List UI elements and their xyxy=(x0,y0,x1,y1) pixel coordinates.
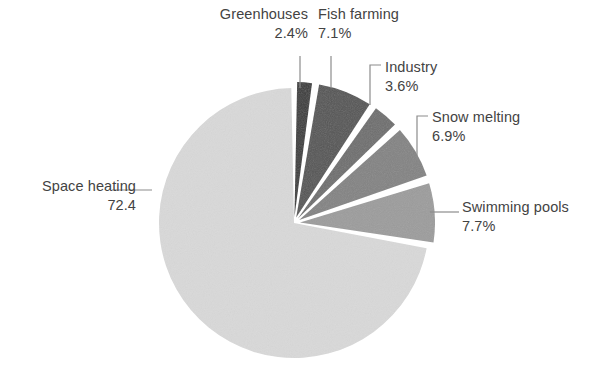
slice-label-space-heating-value: 72.4 xyxy=(6,196,136,215)
slice-label-swimming-pools: Swimming pools 7.7% xyxy=(462,198,603,235)
pie-chart-figure: Greenhouses 2.4% Fish farming 7.1% Indus… xyxy=(0,0,603,367)
slice-label-space-heating: Space heating 72.4 xyxy=(6,177,136,214)
slice-label-fish-farming-value: 7.1% xyxy=(318,24,438,43)
slice-label-greenhouses-value: 2.4% xyxy=(178,24,308,43)
slice-label-industry: Industry 3.6% xyxy=(385,58,505,95)
leader-line-industry xyxy=(370,65,381,105)
leader-line-snow-melting xyxy=(417,116,428,160)
pie-slices-group xyxy=(159,82,435,358)
slice-label-greenhouses: Greenhouses 2.4% xyxy=(178,5,308,42)
slice-label-fish-farming-name: Fish farming xyxy=(318,5,438,24)
slice-label-fish-farming: Fish farming 7.1% xyxy=(318,5,438,42)
slice-label-swimming-pools-value: 7.7% xyxy=(462,217,603,236)
slice-label-greenhouses-name: Greenhouses xyxy=(178,5,308,24)
slice-label-industry-name: Industry xyxy=(385,58,505,77)
slice-label-snow-melting: Snow melting 6.9% xyxy=(432,108,572,145)
slice-label-industry-value: 3.6% xyxy=(385,77,505,96)
slice-label-space-heating-name: Space heating xyxy=(6,177,136,196)
slice-label-snow-melting-value: 6.9% xyxy=(432,127,572,146)
slice-label-snow-melting-name: Snow melting xyxy=(432,108,572,127)
slice-label-swimming-pools-name: Swimming pools xyxy=(462,198,603,217)
